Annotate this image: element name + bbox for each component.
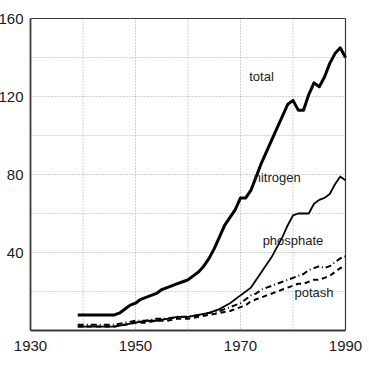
series-label-phosphate: phosphate bbox=[263, 233, 324, 248]
x-axis-tick-labels: 1930195019701990 bbox=[14, 337, 362, 354]
y-tick-label: 80 bbox=[7, 166, 24, 183]
y-axis-tick-labels: 4080120160 bbox=[0, 10, 24, 261]
x-tick-label: 1990 bbox=[329, 337, 362, 354]
series-label-total: total bbox=[249, 69, 274, 84]
series-inline-labels: totalnitrogenphosphatepotash bbox=[249, 69, 333, 300]
fertilizer-use-line-chart: 4080120160 1930195019701990 totalnitroge… bbox=[0, 0, 369, 365]
x-tick-label: 1950 bbox=[119, 337, 152, 354]
x-tick-label: 1930 bbox=[14, 337, 47, 354]
series-line-total bbox=[78, 48, 346, 315]
series-label-nitrogen: nitrogen bbox=[254, 170, 301, 185]
y-tick-label: 160 bbox=[0, 10, 24, 27]
series-label-potash: potash bbox=[294, 285, 333, 300]
y-tick-label: 120 bbox=[0, 88, 24, 105]
y-tick-label: 40 bbox=[7, 244, 24, 261]
x-tick-label: 1970 bbox=[224, 337, 257, 354]
chart-canvas: 4080120160 1930195019701990 totalnitroge… bbox=[0, 0, 369, 365]
